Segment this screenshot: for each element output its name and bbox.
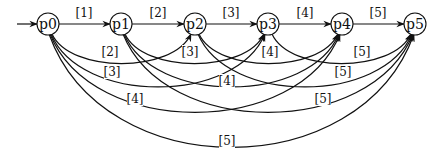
edge-label-p2-p4: [4]	[262, 45, 279, 59]
node-label: p1	[112, 16, 130, 32]
node-p1: p1	[110, 13, 132, 35]
edge-label-p2-p5: [5]	[335, 65, 352, 79]
edge-label-p3-p4: [4]	[297, 6, 314, 20]
edge-label-p4-p5: [5]	[370, 6, 387, 20]
edge-label-p1-p3: [3]	[182, 45, 199, 59]
edge-label-p0-p3: [3]	[104, 65, 121, 79]
edge-p0-p2	[52, 34, 191, 64]
edge-label-p0-p2: [2]	[102, 45, 119, 59]
automaton-diagram: [1][2][3][4][5][2][3][4][5][3][4][5][4][…	[0, 0, 441, 158]
edge-label-p2-p3: [3]	[223, 6, 240, 20]
edge-label-p0-p1: [1]	[76, 6, 93, 20]
edges-layer	[17, 24, 414, 147]
node-label: p3	[259, 16, 277, 32]
node-p0: p0	[37, 13, 59, 35]
node-label: p4	[333, 16, 351, 32]
edge-label-p1-p4: [4]	[219, 74, 236, 88]
node-label: p5	[406, 16, 424, 32]
edge-label-p1-p2: [2]	[150, 6, 167, 20]
edge-label-p1-p5: [5]	[315, 92, 332, 106]
node-label: p2	[186, 16, 204, 32]
node-p4: p4	[331, 13, 353, 35]
edge-label-p3-p5: [5]	[354, 45, 371, 59]
edge-label-p0-p5: [5]	[219, 134, 236, 148]
edge-p3-p5	[272, 34, 411, 64]
edge-label-p0-p4: [4]	[127, 92, 144, 106]
node-p5: p5	[404, 13, 426, 35]
node-label: p0	[39, 16, 57, 32]
node-p2: p2	[184, 13, 206, 35]
node-p3: p3	[257, 13, 279, 35]
